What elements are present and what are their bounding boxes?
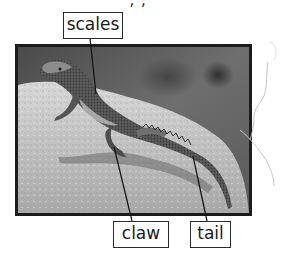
lizard-photo (15, 44, 252, 216)
label-tail-text: tail (197, 225, 224, 242)
lizard-photo-illustration (18, 47, 249, 213)
label-tail: tail (190, 221, 231, 248)
label-claw-text: claw (122, 225, 160, 242)
label-scales: scales (63, 12, 123, 39)
label-claw: claw (113, 221, 169, 248)
scribble-stroke-upper (250, 62, 268, 140)
label-scales-text: scales (67, 16, 120, 33)
diagram-page: · , , · · · · (0, 0, 282, 256)
scribble-stroke-top (270, 42, 276, 60)
cropped-heading-fragment: · , , · · · · (118, 0, 193, 9)
